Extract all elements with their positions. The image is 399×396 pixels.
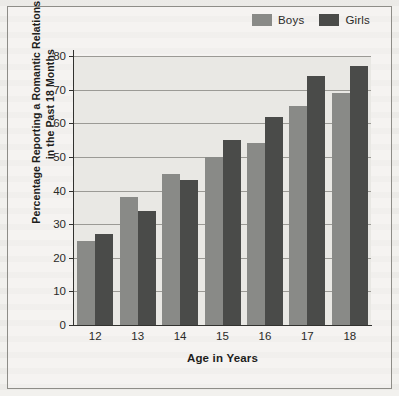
legend-swatch-girls [319, 14, 339, 26]
bar-group-age-13 [120, 56, 156, 325]
x-axis-title: Age in Years [74, 352, 371, 364]
chart-legend: Boys Girls [252, 14, 370, 26]
y-axis-tick-label: 40 [42, 185, 66, 197]
bar-boys-age-16 [247, 143, 265, 325]
bar-girls-age-12 [95, 234, 113, 325]
y-axis-tick [69, 56, 74, 57]
bar-boys-age-18 [332, 93, 350, 325]
y-axis-tick-label: 0 [42, 319, 66, 331]
x-axis-tick-label-12: 12 [75, 330, 115, 342]
y-axis-tick [69, 325, 74, 326]
x-axis-tick-label-13: 13 [118, 330, 158, 342]
bar-boys-age-12 [77, 241, 95, 325]
x-axis-tick-label-16: 16 [245, 330, 285, 342]
bar-girls-age-14 [180, 180, 198, 325]
x-axis-tick-label-18: 18 [330, 330, 370, 342]
x-axis-tick-label-14: 14 [160, 330, 200, 342]
bar-group-age-17 [289, 56, 325, 325]
bar-group-age-18 [332, 56, 368, 325]
y-axis-tick-label: 20 [42, 252, 66, 264]
y-axis-tick [69, 90, 74, 91]
y-axis-tick-label: 80 [42, 50, 66, 62]
bar-girls-age-13 [138, 211, 156, 325]
y-axis-tick-label: 10 [42, 285, 66, 297]
y-axis-tick [69, 191, 74, 192]
bar-girls-age-18 [350, 66, 368, 325]
bar-group-age-16 [247, 56, 283, 325]
legend-swatch-boys [252, 14, 272, 26]
bar-boys-age-13 [120, 197, 138, 325]
legend-entry-boys: Boys [252, 14, 304, 26]
x-axis-line [73, 325, 372, 326]
y-axis-tick [69, 224, 74, 225]
y-axis-tick-label: 50 [42, 151, 66, 163]
y-axis-tick-label: 30 [42, 218, 66, 230]
bar-girls-age-15 [223, 140, 241, 325]
y-axis-tick [69, 123, 74, 124]
bar-boys-age-15 [205, 157, 223, 325]
legend-label-girls: Girls [345, 14, 370, 26]
y-axis-tick-label: 70 [42, 84, 66, 96]
chart-figure: Boys Girls Percentage Reporting a Romant… [0, 0, 399, 396]
y-axis-tick-label: 60 [42, 117, 66, 129]
bar-group-age-15 [205, 56, 241, 325]
bar-boys-age-17 [289, 106, 307, 325]
y-axis-tick [69, 157, 74, 158]
bar-girls-age-16 [265, 117, 283, 325]
y-axis-tick-labels: 80706050403020100 [40, 0, 66, 396]
y-axis-tick [69, 258, 74, 259]
y-axis-tick [69, 291, 74, 292]
bar-group-age-12 [77, 56, 113, 325]
legend-label-boys: Boys [278, 14, 304, 26]
y-axis-line [73, 50, 74, 326]
x-axis-tick-label-17: 17 [287, 330, 327, 342]
bar-girls-age-17 [307, 76, 325, 325]
legend-entry-girls: Girls [319, 14, 370, 26]
plot-area [74, 56, 371, 325]
bar-group-age-14 [162, 56, 198, 325]
bar-boys-age-14 [162, 174, 180, 325]
x-axis-tick-label-15: 15 [203, 330, 243, 342]
